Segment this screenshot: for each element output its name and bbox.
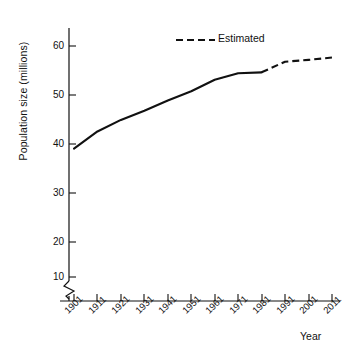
series-line-observed: [74, 72, 262, 148]
y-tick-label-60: 60: [42, 40, 64, 51]
y-axis-ticks: [69, 46, 76, 277]
y-tick-label-20: 20: [42, 236, 64, 247]
y-tick-label-30: 30: [42, 187, 64, 198]
series-line-estimated: [262, 58, 332, 73]
y-tick-label-50: 50: [42, 89, 64, 100]
y-tick-label-40: 40: [42, 138, 64, 149]
y-tick-label-10: 10: [42, 271, 64, 282]
population-line-chart: Population size (millions) Year Estimate…: [0, 0, 346, 359]
